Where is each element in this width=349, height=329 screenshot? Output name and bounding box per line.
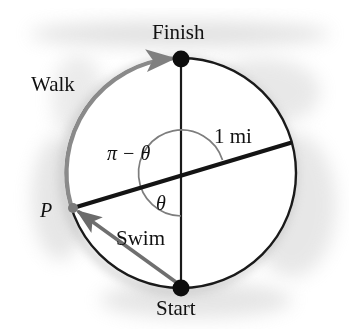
p-point-dot [68,203,78,213]
diagram-canvas [0,0,349,329]
circle-swim-walk-diagram: Finish Start Walk Swim 1 mi P π − θ θ [0,0,349,329]
point-p-label: P [40,200,52,220]
angle-theta-label: θ [156,193,166,213]
radius-label: 1 mi [214,126,252,147]
walk-label: Walk [31,74,75,95]
angle-pi-minus-theta-label: π − θ [107,143,150,163]
start-point-dot [173,280,190,297]
finish-point-dot [173,51,190,68]
start-label: Start [156,298,196,319]
finish-label: Finish [152,22,205,43]
swim-label: Swim [116,228,165,249]
